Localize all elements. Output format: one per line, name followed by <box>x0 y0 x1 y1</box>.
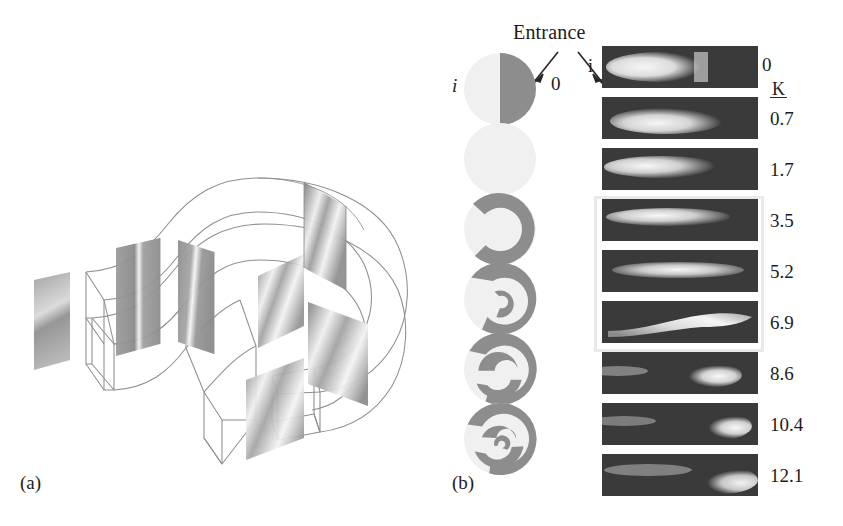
plume-diffuse-right <box>682 466 758 494</box>
strip-station-0-label: 0 <box>762 55 772 74</box>
plane-station-5 <box>258 254 304 348</box>
plane-station-1 <box>34 272 70 370</box>
panel-b-caption: (b) <box>452 473 474 492</box>
plane-station-7 <box>246 358 304 460</box>
panel-a-duct-diagram <box>8 120 428 470</box>
duct-3d-svg <box>8 120 428 470</box>
plume-lens-left <box>610 108 722 134</box>
k-value-label: 0.7 <box>770 109 794 128</box>
strip-image <box>602 199 758 241</box>
panel-a-caption: (a) <box>20 473 41 492</box>
k-value-label: 8.6 <box>770 364 794 383</box>
strip-image <box>602 46 758 88</box>
strip-image <box>602 352 758 394</box>
plane-station-2 <box>116 238 160 356</box>
plume-long-streak <box>606 208 730 226</box>
plane-station-6 <box>308 302 368 406</box>
plane-station-4 <box>304 182 346 290</box>
k-value-label: 12.1 <box>770 466 803 485</box>
circular-cross-section-column <box>455 44 565 464</box>
longitudinal-strip-column <box>602 46 758 510</box>
plume-tapered-left <box>604 156 720 178</box>
strip-image <box>602 301 758 343</box>
strip-image <box>602 454 758 496</box>
k-value-label: 3.5 <box>770 211 794 230</box>
strip-image <box>602 250 758 292</box>
circle-cross-section <box>455 394 545 484</box>
k-value-label: 10.4 <box>770 415 803 434</box>
figure-root: (a) Entrance i 0 i 0 K <box>0 0 843 526</box>
plume-bulb-right <box>670 362 742 388</box>
strip-image <box>602 148 758 190</box>
k-column-header: K <box>772 80 785 98</box>
plume-long-thin <box>612 262 744 278</box>
k-value-label: 1.7 <box>770 160 794 179</box>
strip-station-i-label: i <box>588 57 593 75</box>
strip-image <box>602 97 758 139</box>
k-column-header-underline <box>770 97 787 98</box>
plane-station-3 <box>178 240 214 354</box>
entrance-label: Entrance <box>513 22 586 42</box>
k-value-label: 6.9 <box>770 313 794 332</box>
k-value-label: 5.2 <box>770 262 794 281</box>
strip-image <box>602 403 758 445</box>
plume-bulb-far-right <box>684 412 752 440</box>
